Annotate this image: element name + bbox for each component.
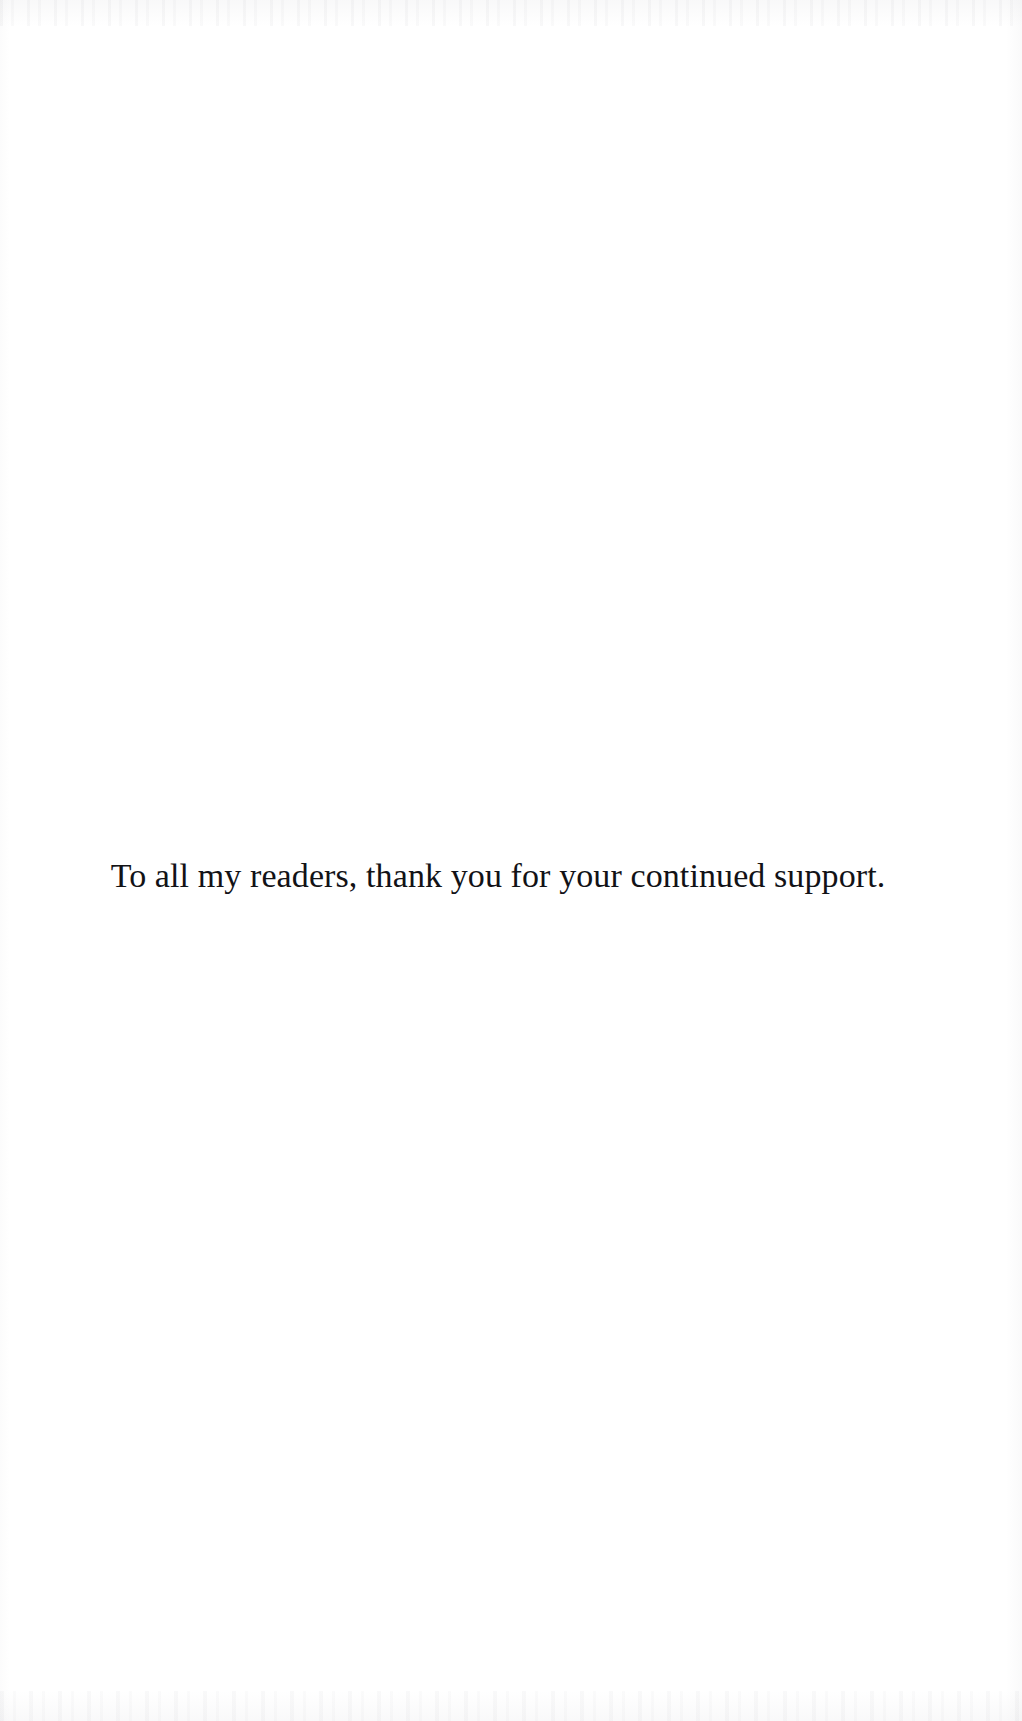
scan-artifact-top-edge: [0, 0, 1022, 26]
dedication-page: To all my readers, thank you for your co…: [0, 0, 1022, 1721]
scan-artifact-bottom-edge: [0, 1691, 1022, 1721]
dedication-block: To all my readers, thank you for your co…: [0, 855, 1022, 897]
dedication-text: To all my readers, thank you for your co…: [111, 855, 912, 897]
